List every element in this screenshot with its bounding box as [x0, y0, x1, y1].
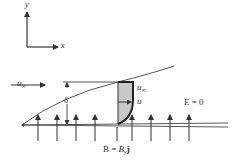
velocity-profile-fill	[118, 82, 133, 124]
edge-velocity-label: u∞	[137, 77, 146, 93]
delta-label: δ	[64, 96, 68, 105]
magnetic-field-unit: j	[127, 144, 130, 154]
flat-plate	[21, 123, 228, 127]
magnetic-field-prefix: B =	[103, 144, 119, 154]
edge-velocity-label-sub: ∞	[142, 87, 146, 93]
freestream-label-sub: ∞	[22, 83, 26, 89]
velocity-profile	[118, 82, 133, 124]
x-axis-label: x	[61, 42, 65, 50]
freestream-label: u∞	[17, 73, 26, 89]
y-axis-label: y	[25, 1, 29, 9]
diagram-canvas	[0, 0, 233, 162]
electric-field-label: E = 0	[184, 98, 204, 107]
coordinate-axes	[27, 12, 58, 47]
local-velocity-label: u	[137, 97, 142, 106]
magnetic-field-label: B = Byj	[103, 145, 130, 155]
mhd-boundary-layer-diagram: y x u∞ δ u∞ u E = 0 B = Byj	[0, 0, 233, 162]
magnetic-field-arrows	[38, 115, 189, 141]
